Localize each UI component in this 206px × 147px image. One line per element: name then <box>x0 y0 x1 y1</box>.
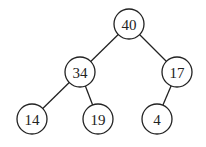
node-label: 4 <box>153 112 161 128</box>
node-label: 19 <box>91 112 106 128</box>
tree-node-34: 34 <box>65 57 95 87</box>
tree-node-17: 17 <box>162 57 192 87</box>
node-label: 14 <box>25 112 41 128</box>
nodes: 40341714194 <box>17 9 192 134</box>
tree-node-14: 14 <box>17 104 47 134</box>
binary-tree-diagram: 40341714194 <box>0 0 206 147</box>
tree-node-4: 4 <box>142 104 172 134</box>
tree-node-19: 19 <box>83 104 113 134</box>
node-label: 34 <box>73 65 89 81</box>
node-label: 17 <box>170 65 186 81</box>
tree-node-40: 40 <box>114 9 144 39</box>
node-label: 40 <box>122 17 137 33</box>
